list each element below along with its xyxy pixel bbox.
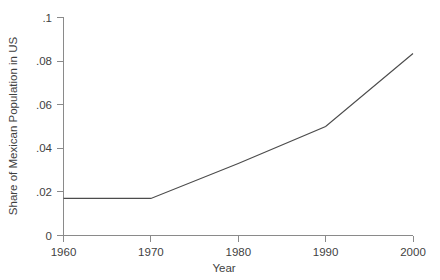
chart-canvas: 0 .02 .04 .06 .08 .1 1960 1970 1980 1990… <box>0 0 440 280</box>
x-axis-tick-labels: 1960 1970 1980 1990 2000 <box>51 246 426 258</box>
x-tick-label-1: 1970 <box>138 246 164 258</box>
y-axis-title: Share of Mexican Population in US <box>7 36 19 215</box>
x-axis-title: Year <box>212 262 235 274</box>
y-tick-label-1: .02 <box>36 186 52 198</box>
y-axis-ticks <box>57 18 64 236</box>
y-axis-tick-labels: 0 .02 .04 .06 .08 .1 <box>36 12 53 242</box>
y-tick-label-2: .04 <box>36 142 53 154</box>
y-tick-label-3: .06 <box>36 99 52 111</box>
x-axis-ticks <box>64 236 414 243</box>
data-series-line <box>64 53 414 198</box>
y-tick-label-5: .1 <box>42 12 52 24</box>
x-tick-label-2: 1980 <box>226 246 252 258</box>
x-tick-label-3: 1990 <box>313 246 339 258</box>
x-tick-label-4: 2000 <box>400 246 426 258</box>
line-chart: 0 .02 .04 .06 .08 .1 1960 1970 1980 1990… <box>0 0 440 280</box>
y-tick-label-4: .08 <box>36 55 52 67</box>
y-tick-label-0: 0 <box>46 230 52 242</box>
x-tick-label-0: 1960 <box>51 246 77 258</box>
